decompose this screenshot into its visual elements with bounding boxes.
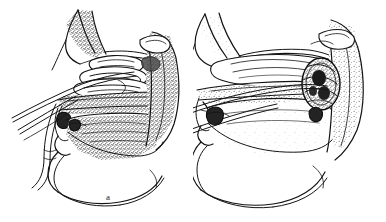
panel-a: a [0, 0, 193, 222]
panel-b-drawing [193, 0, 386, 222]
panel-b: b [193, 0, 386, 222]
panel-a-drawing [0, 0, 193, 222]
panel-a-caption: a [99, 193, 117, 202]
nasopharynx-shadow [142, 57, 160, 71]
anatomical-figure: a [0, 0, 386, 222]
